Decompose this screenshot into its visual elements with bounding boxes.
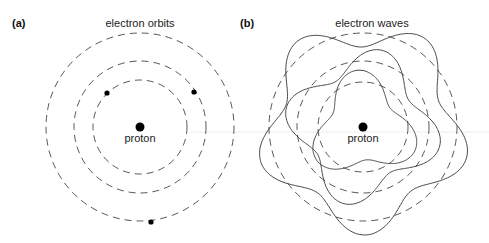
panel-b-title: electron waves [335,17,409,29]
electron [191,89,196,94]
wave-inner [313,70,417,169]
panel-a-title: electron orbits [105,17,175,29]
panel-b: (b) electron waves proton [240,17,468,235]
electron [148,219,153,224]
proton-dot [359,123,368,132]
panel-a-label: (a) [12,17,26,29]
panel-a: (a) electron orbits proton [12,17,234,225]
proton-label: proton [347,132,378,144]
proton-label: proton [124,132,155,144]
panel-b-label: (b) [240,17,254,29]
electron [104,90,109,95]
proton-dot [136,123,145,132]
atom-diagram: (a) electron orbits proton (b) electron … [0,0,489,243]
